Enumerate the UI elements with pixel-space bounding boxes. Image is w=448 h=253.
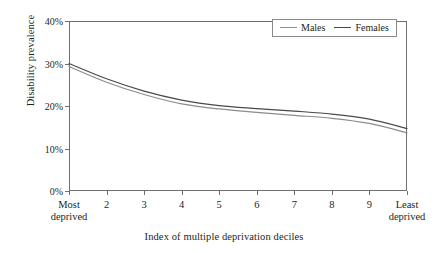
x-tick-label-line1: 2 [104, 199, 109, 211]
x-tick-label: Leastdeprived [389, 199, 426, 222]
x-tick-6 [257, 191, 258, 195]
x-tick-label: 5 [217, 199, 222, 211]
chart-legend: MalesFemales [272, 19, 397, 37]
y-tick-label: 10% [45, 143, 63, 154]
x-tick-label-line1: 5 [217, 199, 222, 211]
x-tick-label-line2: deprived [389, 211, 426, 223]
legend-entry-females[interactable]: Females [334, 22, 388, 33]
x-tick-label-line1: Most [51, 199, 88, 211]
x-tick-label: 9 [367, 199, 372, 211]
x-tick-9 [369, 191, 370, 195]
y-tick-label: 40% [45, 16, 63, 27]
x-tick-2 [107, 191, 108, 195]
series-line-males [69, 66, 407, 132]
legend-label: Males [301, 22, 325, 33]
legend-line-icon [280, 27, 297, 28]
x-tick-label-line1: 6 [254, 199, 259, 211]
x-tick-3 [144, 191, 145, 195]
x-tick-label-line1: 4 [179, 199, 184, 211]
y-tick-label: 30% [45, 58, 63, 69]
x-tick-5 [219, 191, 220, 195]
x-tick-label: Mostdeprived [51, 199, 88, 222]
x-tick-1 [69, 191, 70, 195]
y-tick-label: 20% [45, 101, 63, 112]
x-tick-label-line1: 9 [367, 199, 372, 211]
x-tick-label: 3 [141, 199, 146, 211]
series-lines [69, 21, 407, 191]
y-axis-title: Disability prevalence [25, 0, 36, 141]
x-tick-label: 4 [179, 199, 184, 211]
legend-entry-males[interactable]: Males [280, 22, 325, 33]
x-tick-label: 7 [292, 199, 297, 211]
series-line-females [69, 64, 407, 129]
legend-line-icon [334, 27, 351, 28]
x-tick-label: 8 [329, 199, 334, 211]
x-tick-label: 6 [254, 199, 259, 211]
x-tick-label-line1: 8 [329, 199, 334, 211]
x-tick-label-line1: Least [389, 199, 426, 211]
x-tick-4 [182, 191, 183, 195]
chart-container: Disability prevalence 0%10%20%30%40% Mos… [0, 0, 448, 253]
x-tick-7 [294, 191, 295, 195]
x-tick-8 [332, 191, 333, 195]
x-tick-label-line1: 7 [292, 199, 297, 211]
legend-label: Females [355, 22, 388, 33]
x-tick-10 [407, 191, 408, 195]
x-tick-label-line1: 3 [141, 199, 146, 211]
x-tick-label: 2 [104, 199, 109, 211]
plot-area: 0%10%20%30%40% Mostdeprived23456789Least… [69, 21, 407, 191]
y-tick-label: 0% [50, 186, 63, 197]
x-tick-label-line2: deprived [51, 211, 88, 223]
x-axis-title: Index of multiple deprivation deciles [0, 231, 448, 242]
